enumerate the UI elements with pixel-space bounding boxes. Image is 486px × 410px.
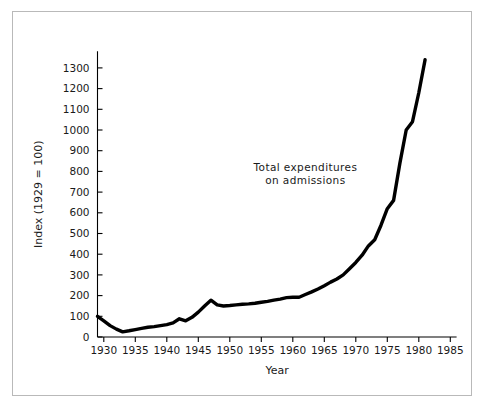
x-tick-label: 1970 [342,344,369,356]
x-tick-label: 1950 [216,344,243,356]
y-tick-label: 300 [69,269,89,281]
x-tick-label: 1965 [311,344,338,356]
x-tick-label: 1940 [153,344,180,356]
x-tick-label: 1935 [122,344,149,356]
y-tick-label: 800 [69,165,89,177]
y-axis-title: Index (1929 = 100) [32,140,45,248]
y-tick-label: 500 [69,227,89,239]
y-tick-label: 1000 [63,124,90,136]
y-tick-label: 700 [69,186,89,198]
y-tick-label: 1300 [63,62,90,74]
x-tick-label: 1980 [405,344,432,356]
chart-figure: 0100200300400500600700800900100011001200… [0,0,486,410]
y-tick-label: 1100 [63,103,90,115]
x-tick-label: 1930 [90,344,117,356]
x-tick-label: 1945 [185,344,212,356]
y-tick-label: 0 [83,331,90,343]
x-axis-title: Year [264,364,289,377]
x-tick-label: 1960 [279,344,306,356]
data-series-line [98,60,426,332]
line-chart: 0100200300400500600700800900100011001200… [0,0,486,410]
y-tick-label: 100 [69,310,89,322]
x-tick-label: 1955 [248,344,275,356]
annotation-line: on admissions [265,174,345,186]
y-tick-label: 400 [69,248,89,260]
annotation-line: Total expenditures [253,161,358,173]
y-tick-label: 600 [69,206,89,218]
y-tick-label: 1200 [63,82,90,94]
x-tick-label: 1985 [437,344,464,356]
x-tick-label: 1975 [374,344,401,356]
series-annotation: Total expenditureson admissions [253,161,358,186]
y-tick-label: 900 [69,144,89,156]
y-tick-label: 200 [69,289,89,301]
